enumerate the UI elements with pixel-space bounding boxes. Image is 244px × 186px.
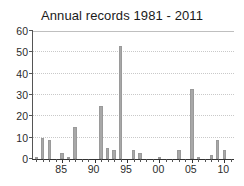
bar xyxy=(190,89,193,159)
bar xyxy=(106,148,109,159)
x-axis-tick xyxy=(114,159,115,162)
y-axis-label: 10 xyxy=(16,132,28,144)
chart-figure: Annual records 1981 - 2011 0102030405060… xyxy=(0,0,244,186)
x-axis-tick xyxy=(134,159,135,162)
y-axis-tick xyxy=(29,115,33,116)
x-axis-tick xyxy=(75,159,76,162)
y-axis-label: 30 xyxy=(16,89,28,101)
y-axis: 0102030405060 xyxy=(0,0,32,186)
x-axis-tick xyxy=(231,159,232,162)
y-axis-label: 50 xyxy=(16,46,28,58)
bar xyxy=(73,127,76,159)
x-axis-tick xyxy=(166,159,167,162)
y-axis-tick xyxy=(29,51,33,52)
x-axis-tick xyxy=(172,159,173,162)
x-axis-label: 95 xyxy=(120,163,132,175)
bar xyxy=(48,140,51,159)
x-axis-tick xyxy=(211,159,212,162)
bar xyxy=(132,150,135,159)
x-axis-label: 90 xyxy=(88,163,100,175)
y-axis-label: 0 xyxy=(22,153,28,165)
x-axis-tick xyxy=(43,159,44,162)
x-axis-tick xyxy=(198,159,199,162)
y-axis-tick xyxy=(29,158,33,159)
y-axis-tick xyxy=(29,73,33,74)
bar xyxy=(177,150,180,159)
bar xyxy=(41,138,44,159)
bar xyxy=(223,150,226,159)
x-axis-tick xyxy=(101,159,102,162)
x-axis: 859095000510 xyxy=(32,163,234,183)
y-axis-label: 60 xyxy=(16,25,28,37)
x-axis-label: 00 xyxy=(153,163,165,175)
y-axis-label: 40 xyxy=(16,68,28,80)
x-axis-tick xyxy=(56,159,57,162)
x-axis-label: 10 xyxy=(217,163,229,175)
bar-series xyxy=(33,31,234,159)
x-axis-tick xyxy=(69,159,70,162)
x-axis-tick xyxy=(218,159,219,162)
y-axis-label: 20 xyxy=(16,110,28,122)
bar xyxy=(216,140,219,159)
y-axis-tick xyxy=(29,137,33,138)
bar xyxy=(119,46,122,159)
x-axis-label: 85 xyxy=(55,163,67,175)
y-axis-tick xyxy=(29,30,33,31)
bar xyxy=(112,150,115,159)
plot-area xyxy=(32,31,234,160)
x-axis-tick xyxy=(185,159,186,162)
x-axis-tick xyxy=(179,159,180,162)
x-axis-tick xyxy=(153,159,154,162)
chart-title: Annual records 1981 - 2011 xyxy=(0,8,244,23)
x-axis-tick xyxy=(108,159,109,162)
x-axis-tick xyxy=(36,159,37,162)
x-axis-tick xyxy=(49,159,50,162)
x-axis-tick xyxy=(146,159,147,162)
x-axis-tick xyxy=(88,159,89,162)
x-axis-tick xyxy=(82,159,83,162)
y-axis-tick xyxy=(29,94,33,95)
x-axis-label: 05 xyxy=(185,163,197,175)
x-axis-tick xyxy=(205,159,206,162)
x-axis-tick xyxy=(140,159,141,162)
bar xyxy=(99,106,102,159)
x-axis-tick xyxy=(121,159,122,162)
